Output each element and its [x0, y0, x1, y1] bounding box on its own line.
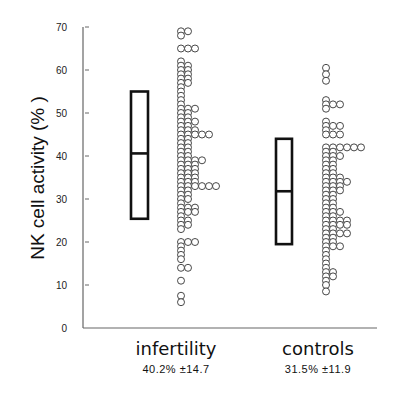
data-point: [330, 122, 337, 129]
stat-infertility: 40.2% ±14.7: [106, 363, 246, 375]
data-point: [213, 183, 220, 190]
data-point: [330, 243, 337, 250]
data-point: [178, 45, 185, 52]
data-point: [323, 282, 330, 289]
data-point: [358, 144, 365, 151]
data-point: [185, 221, 192, 228]
data-point: [337, 122, 344, 129]
data-point: [323, 77, 330, 84]
data-point: [344, 230, 351, 237]
category-label-controls: controls: [248, 338, 388, 359]
data-point: [178, 292, 185, 299]
data-point: [192, 183, 199, 190]
data-point: [192, 118, 199, 125]
data-point: [323, 288, 330, 295]
data-point: [323, 64, 330, 71]
data-point: [199, 157, 206, 164]
data-point: [337, 208, 344, 215]
data-point: [185, 264, 192, 271]
data-point: [323, 71, 330, 78]
data-point: [337, 230, 344, 237]
data-point: [337, 101, 344, 108]
data-point: [192, 105, 199, 112]
y-axis-label: NK cell activity (% ): [27, 96, 48, 260]
data-point: [199, 131, 206, 138]
y-tick-label: 50: [56, 108, 68, 119]
data-point: [192, 45, 199, 52]
data-point: [178, 264, 185, 271]
y-tick-label: 60: [56, 65, 68, 76]
box-infertility: [131, 92, 148, 219]
data-point: [192, 208, 199, 215]
data-point: [178, 256, 185, 263]
data-point: [178, 32, 185, 39]
data-point: [330, 101, 337, 108]
data-point: [344, 144, 351, 151]
y-tick-label: 20: [56, 237, 68, 248]
data-point: [323, 105, 330, 112]
data-point: [344, 221, 351, 228]
data-point: [185, 208, 192, 215]
data-points: [178, 28, 365, 306]
data-point: [178, 299, 185, 306]
data-point: [337, 221, 344, 228]
y-tick-label: 0: [61, 323, 67, 334]
y-ticks: 010203040506070: [56, 22, 89, 334]
data-point: [337, 153, 344, 160]
data-point: [337, 131, 344, 138]
data-point: [337, 243, 344, 250]
data-point: [178, 226, 185, 233]
data-point: [185, 196, 192, 203]
category-label-infertility: infertility: [106, 338, 246, 359]
data-point: [192, 131, 199, 138]
data-point: [185, 239, 192, 246]
y-tick-label: 70: [56, 22, 68, 33]
y-tick-label: 10: [56, 280, 68, 291]
data-point: [206, 183, 213, 190]
data-point: [337, 187, 344, 194]
data-point: [199, 183, 206, 190]
data-point: [337, 144, 344, 151]
box-plots: [131, 92, 292, 245]
dot-plot-chart: 010203040506070 NK cell activity (% ): [0, 0, 399, 394]
y-tick-label: 30: [56, 194, 68, 205]
y-tick-label: 40: [56, 151, 68, 162]
data-point: [185, 79, 192, 86]
data-point: [206, 131, 213, 138]
data-point: [351, 144, 358, 151]
data-point: [178, 277, 185, 284]
data-point: [344, 178, 351, 185]
data-point: [323, 131, 330, 138]
data-point: [330, 131, 337, 138]
stat-controls: 31.5% ±11.9: [248, 363, 388, 375]
data-point: [185, 45, 192, 52]
data-point: [185, 28, 192, 35]
data-point: [330, 273, 337, 280]
data-point: [192, 239, 199, 246]
